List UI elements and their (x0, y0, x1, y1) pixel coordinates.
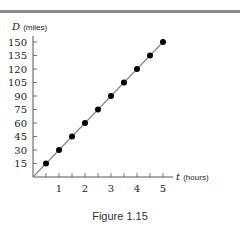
data-point (108, 93, 114, 99)
y-tick-label: 105 (8, 77, 27, 88)
data-point (43, 161, 49, 167)
x-tick-label: 3 (108, 183, 114, 194)
y-tick-label: 135 (8, 50, 27, 61)
data-point (82, 120, 88, 126)
y-tick-label: 150 (8, 37, 27, 48)
y-axis-label: D (miles) (11, 21, 48, 32)
data-point (147, 53, 153, 59)
y-tick-label: 120 (8, 64, 27, 75)
x-axis-label: t (hours) (176, 171, 209, 182)
data-point (56, 147, 62, 153)
data-point (134, 66, 140, 72)
data-point (95, 107, 101, 113)
y-tick-label: 30 (14, 145, 27, 156)
x-tick-label: 1 (56, 183, 62, 194)
data-point (69, 134, 75, 140)
x-tick-label: 5 (160, 183, 166, 194)
data-point (121, 80, 127, 86)
chart-plot: 12345153045607590105120135150D (miles)t … (0, 0, 240, 231)
data-point (160, 39, 166, 45)
y-tick-label: 60 (14, 118, 27, 129)
y-tick-label: 45 (14, 131, 27, 142)
x-tick-label: 2 (82, 183, 88, 194)
y-tick-label: 75 (14, 104, 27, 115)
y-tick-label: 15 (14, 158, 27, 169)
y-tick-label: 90 (14, 91, 27, 102)
x-tick-label: 4 (134, 183, 140, 194)
figure-caption: Figure 1.15 (0, 210, 240, 222)
